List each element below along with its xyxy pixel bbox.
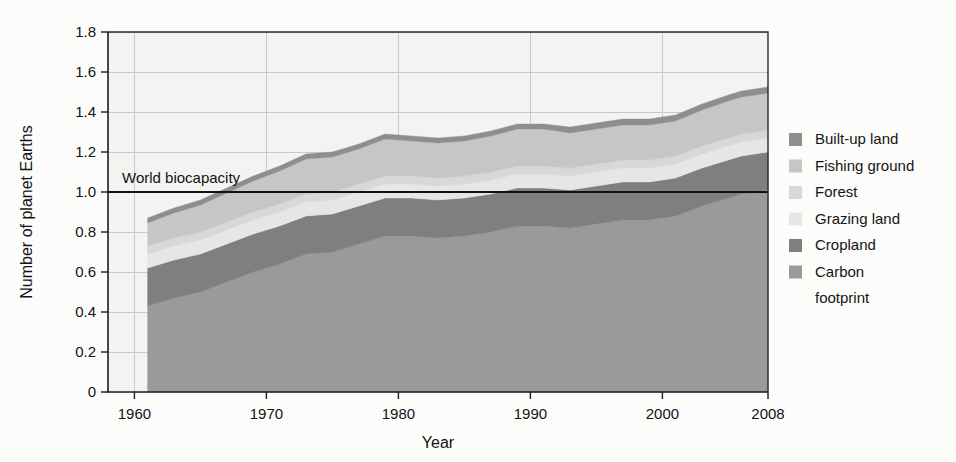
legend-label-6: footprint — [815, 289, 870, 306]
y-tick-label: 0 — [88, 383, 96, 400]
legend-swatch-0 — [789, 133, 802, 146]
x-tick-label: 1970 — [250, 405, 283, 422]
y-tick-label: 1.0 — [75, 183, 96, 200]
y-tick-label: 0.4 — [75, 303, 96, 320]
legend-label-5: Carbon — [815, 263, 864, 280]
y-tick-label: 1.6 — [75, 63, 96, 80]
y-tick-label: 0.6 — [75, 263, 96, 280]
x-tick-label: 1980 — [382, 405, 415, 422]
legend-label-0: Built-up land — [815, 130, 898, 147]
legend-swatch-2 — [789, 186, 802, 199]
legend-label-4: Cropland — [815, 236, 876, 253]
legend-label-2: Forest — [815, 183, 858, 200]
legend-label-1: Fishing ground — [815, 157, 914, 174]
x-axis-title: Year — [422, 434, 455, 451]
legend-swatch-5 — [789, 266, 802, 279]
x-tick-label: 1960 — [118, 405, 151, 422]
x-tick-label: 2000 — [646, 405, 679, 422]
legend-label-3: Grazing land — [815, 210, 900, 227]
chart-canvas: World biocapacity00.20.40.60.81.01.21.41… — [0, 0, 956, 462]
legend-swatch-4 — [789, 239, 802, 252]
y-tick-label: 0.2 — [75, 343, 96, 360]
x-tick-label: 1990 — [514, 405, 547, 422]
y-tick-label: 1.4 — [75, 103, 96, 120]
y-tick-label: 1.2 — [75, 143, 96, 160]
world-biocapacity-label: World biocapacity — [122, 169, 241, 186]
y-tick-label: 1.8 — [75, 23, 96, 40]
y-axis-title: Number of planet Earths — [18, 125, 35, 298]
y-tick-label: 0.8 — [75, 223, 96, 240]
legend-swatch-3 — [789, 213, 802, 226]
x-tick-label: 2008 — [751, 405, 784, 422]
footprint-area-chart: World biocapacity00.20.40.60.81.01.21.41… — [0, 0, 956, 462]
legend-swatch-1 — [789, 160, 802, 173]
